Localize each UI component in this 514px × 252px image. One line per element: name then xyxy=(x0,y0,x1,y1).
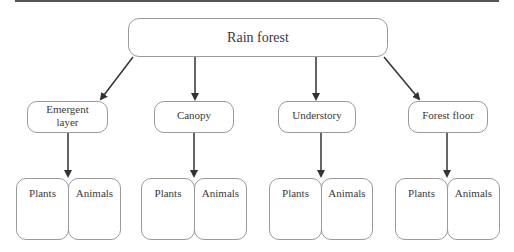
node-emergent-plants: Plants xyxy=(16,178,69,240)
node-canopy: Canopy xyxy=(154,101,234,133)
arrow-root-to-forest-floor xyxy=(384,57,419,99)
node-canopy-animals: Animals xyxy=(194,178,247,240)
node-emergent-line1: Emergent xyxy=(46,103,89,116)
node-emergent-animals: Animals xyxy=(68,178,121,240)
node-forest-floor: Forest floor xyxy=(408,101,488,133)
node-understory-animals: Animals xyxy=(321,178,373,240)
node-forest-floor-animals: Animals xyxy=(447,178,500,240)
node-forest-floor-plants: Plants xyxy=(395,178,448,240)
node-emergent-line2: layer xyxy=(57,116,79,129)
node-rain-forest: Rain forest xyxy=(128,18,388,57)
node-understory: Understory xyxy=(278,101,356,133)
node-canopy-plants: Plants xyxy=(141,178,195,240)
node-understory-plants: Plants xyxy=(269,178,322,240)
arrow-root-to-emergent xyxy=(101,57,133,99)
node-emergent-layer: Emergent layer xyxy=(27,101,108,133)
